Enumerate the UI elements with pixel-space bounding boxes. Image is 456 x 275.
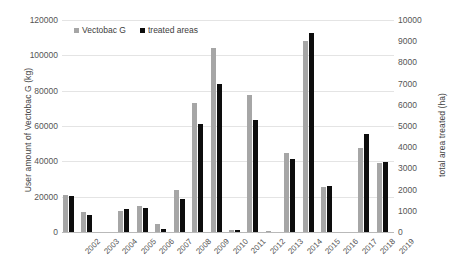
bar-vectobac-g bbox=[81, 212, 86, 232]
bar-vectobac-g bbox=[284, 153, 289, 233]
x-axis-tick-label: 2018 bbox=[379, 237, 398, 256]
y-axis-left-tick-label: 120000 bbox=[30, 16, 58, 25]
chart-legend: Vectobac Gtreated areas bbox=[74, 25, 198, 35]
x-axis-tick-label: 2002 bbox=[83, 237, 102, 256]
y-axis-left-tick-label: 0 bbox=[53, 228, 58, 237]
bar-vectobac-g bbox=[137, 206, 142, 232]
x-axis-tick-label: 2009 bbox=[213, 237, 232, 256]
legend-swatch-icon bbox=[140, 28, 145, 33]
legend-label: treated areas bbox=[148, 25, 198, 35]
bar-group bbox=[210, 20, 228, 232]
y-axis-right-tick-label: 0 bbox=[398, 228, 403, 237]
legend-item: Vectobac G bbox=[74, 25, 126, 35]
x-axis-labels: 2002200320042005200620072008200920102011… bbox=[62, 233, 394, 275]
bar-group bbox=[265, 20, 283, 232]
bar-treated-areas bbox=[383, 162, 388, 232]
bar-group bbox=[357, 20, 375, 232]
bar-group bbox=[302, 20, 320, 232]
y-axis-left-ticks: 020000400006000080000100000120000 bbox=[12, 0, 58, 275]
bar-group bbox=[117, 20, 135, 232]
bar-treated-areas bbox=[253, 120, 258, 232]
legend-swatch-icon bbox=[74, 28, 79, 33]
bar-chart: User amount of Vectobac G (kg) total are… bbox=[0, 0, 456, 275]
y-axis-right-tick-label: 1000 bbox=[398, 207, 417, 216]
y-axis-right-tick-label: 10000 bbox=[398, 16, 422, 25]
y-axis-left-tick-label: 80000 bbox=[34, 87, 58, 96]
bar-group bbox=[283, 20, 301, 232]
y-axis-right-title: total area treated (ha) bbox=[437, 55, 447, 215]
bar-treated-areas bbox=[309, 33, 314, 232]
bar-treated-areas bbox=[69, 196, 74, 232]
y-axis-right-tick-label: 4000 bbox=[398, 143, 417, 152]
y-axis-right-tick-label: 8000 bbox=[398, 58, 417, 67]
bar-vectobac-g bbox=[377, 163, 382, 232]
bar-group bbox=[191, 20, 209, 232]
x-axis-tick-label: 2014 bbox=[305, 237, 324, 256]
bar-vectobac-g bbox=[63, 195, 68, 232]
x-axis-tick-label: 2008 bbox=[194, 237, 213, 256]
x-axis-tick-label: 2012 bbox=[268, 237, 287, 256]
x-axis-tick-label: 2003 bbox=[102, 237, 121, 256]
bar-vectobac-g bbox=[211, 48, 216, 232]
bar-group bbox=[154, 20, 172, 232]
bar-vectobac-g bbox=[174, 190, 179, 232]
bar-vectobac-g bbox=[118, 211, 123, 232]
x-axis-tick-label: 2006 bbox=[157, 237, 176, 256]
y-axis-right-tick-label: 7000 bbox=[398, 80, 417, 89]
x-axis-tick-label: 2016 bbox=[342, 237, 361, 256]
y-axis-left-tick-label: 40000 bbox=[34, 157, 58, 166]
bar-vectobac-g bbox=[358, 148, 363, 232]
y-axis-right-tick-label: 5000 bbox=[398, 122, 417, 131]
y-axis-right-tick-label: 2000 bbox=[398, 186, 417, 195]
y-axis-right-ticks: 0100020003000400050006000700080009000100… bbox=[398, 0, 438, 275]
y-axis-right-tick-label: 9000 bbox=[398, 37, 417, 46]
x-axis-tick-label: 2010 bbox=[231, 237, 250, 256]
bar-group bbox=[320, 20, 338, 232]
plot-area bbox=[62, 20, 394, 232]
y-axis-left-tick-label: 20000 bbox=[34, 193, 58, 202]
bar-group bbox=[136, 20, 154, 232]
bar-treated-areas bbox=[87, 215, 92, 232]
bar-treated-areas bbox=[180, 199, 185, 232]
bar-treated-areas bbox=[217, 84, 222, 232]
bar-treated-areas bbox=[143, 208, 148, 232]
bar-vectobac-g bbox=[192, 103, 197, 232]
bar-group bbox=[228, 20, 246, 232]
bar-treated-areas bbox=[198, 124, 203, 232]
y-axis-left-tick-label: 60000 bbox=[34, 122, 58, 131]
bar-vectobac-g bbox=[303, 41, 308, 232]
bar-vectobac-g bbox=[321, 187, 326, 232]
bar-vectobac-g bbox=[247, 95, 252, 232]
y-axis-right-tick-label: 6000 bbox=[398, 101, 417, 110]
legend-label: Vectobac G bbox=[82, 25, 126, 35]
x-axis-tick-label: 2004 bbox=[120, 237, 139, 256]
x-axis-tick-label: 2017 bbox=[360, 237, 379, 256]
bar-group bbox=[376, 20, 394, 232]
bar-vectobac-g bbox=[155, 224, 160, 232]
x-axis-tick-label: 2005 bbox=[139, 237, 158, 256]
bar-group bbox=[80, 20, 98, 232]
x-axis-tick-label: 2007 bbox=[176, 237, 195, 256]
bar-treated-areas bbox=[124, 209, 129, 232]
bar-group bbox=[173, 20, 191, 232]
y-axis-left-tick-label: 100000 bbox=[30, 51, 58, 60]
legend-item: treated areas bbox=[140, 25, 198, 35]
bar-treated-areas bbox=[364, 134, 369, 232]
bar-group bbox=[246, 20, 264, 232]
bar-group bbox=[339, 20, 357, 232]
bar-group bbox=[99, 20, 117, 232]
x-axis-tick-label: 2011 bbox=[249, 237, 268, 256]
bar-treated-areas bbox=[290, 159, 295, 232]
x-axis-tick-label: 2013 bbox=[286, 237, 305, 256]
y-axis-right-tick-label: 3000 bbox=[398, 164, 417, 173]
x-axis-tick-label: 2015 bbox=[323, 237, 342, 256]
bar-treated-areas bbox=[327, 186, 332, 232]
bar-group bbox=[62, 20, 80, 232]
